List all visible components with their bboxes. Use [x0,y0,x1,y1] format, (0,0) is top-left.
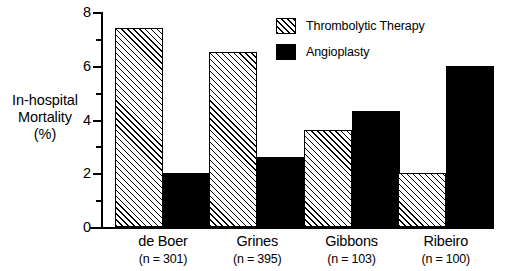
x-axis-label-sample-size: (n = 100) [378,251,506,267]
y-axis-tick-label: 2 [83,166,91,181]
y-axis-minor-tick [96,39,101,41]
y-axis-label: In-hospital Mortality (%) [2,92,88,143]
bar-gibbons-thrombolytic-therapy [304,130,352,227]
legend-swatch-hatch [276,18,296,34]
bar-gibbons-angioplasty [352,111,400,227]
legend-label: Thrombolytic Therapy [306,20,425,33]
y-axis-major-tick [93,66,101,68]
legend-swatch-solid [276,44,296,60]
y-axis-label-line-3: (%) [2,126,88,143]
bar-de-boer-angioplasty [163,173,211,227]
y-axis-label-line-1: In-hospital [2,92,88,109]
y-axis-line [101,12,103,228]
y-axis-tick-label: 6 [83,59,91,74]
y-axis-label-line-2: Mortality [2,109,88,126]
legend-item-angioplasty: Angioplasty [276,41,425,63]
bar-ribeiro-angioplasty [446,66,494,227]
legend-label: Angioplasty [306,46,370,59]
y-axis-minor-tick [96,93,101,95]
y-axis-minor-tick [96,200,101,202]
legend-item-thrombolytic-therapy: Thrombolytic Therapy [276,15,425,37]
bar-ribeiro-thrombolytic-therapy [398,173,446,227]
y-axis-major-tick [93,120,101,122]
y-axis-tick-label: 4 [83,112,91,127]
y-axis-tick-label: 0 [83,220,91,235]
x-axis-line [90,227,494,229]
bar-de-boer-thrombolytic-therapy [115,28,163,227]
x-axis-label-name: Ribeiro [378,233,506,249]
bar-grines-angioplasty [257,157,305,227]
x-axis-label-ribeiro: Ribeiro(n = 100) [378,233,506,267]
bar-grines-thrombolytic-therapy [209,52,257,227]
y-axis-tick-label: 8 [83,5,91,20]
y-axis-major-tick [93,227,101,229]
y-axis-minor-tick [96,146,101,148]
y-axis-major-tick [93,173,101,175]
y-axis-major-tick [93,12,101,14]
chart-legend: Thrombolytic TherapyAngioplasty [276,15,425,67]
